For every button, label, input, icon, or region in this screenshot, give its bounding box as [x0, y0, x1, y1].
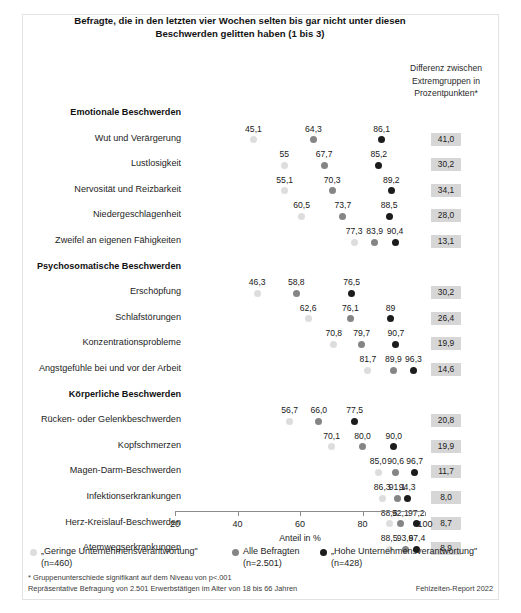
data-point-low — [281, 187, 288, 194]
data-point-value: 70,1 — [323, 431, 340, 441]
x-axis-tick — [300, 512, 301, 516]
data-point-value: 89,2 — [383, 175, 400, 185]
data-point-value: 58,8 — [288, 277, 305, 287]
difference-badge: 19,9 — [431, 337, 461, 350]
data-point-value: 66,0 — [310, 405, 327, 415]
data-point-value: 76,5 — [343, 277, 360, 287]
plot-area: Emotionale BeschwerdenWut und Verärgerun… — [0, 0, 521, 613]
data-point-value: 90,0 — [385, 431, 402, 441]
data-point-low — [298, 213, 305, 220]
x-axis: 20406080100 — [175, 511, 425, 512]
x-axis-tick — [175, 512, 176, 516]
data-point-high — [351, 418, 358, 425]
data-point-value: 89 — [386, 303, 396, 313]
legend-sample-size: (n=2.501) — [243, 558, 282, 568]
source-label: Fehlzeiten-Report 2022 — [416, 584, 493, 593]
data-point-low — [375, 469, 382, 476]
data-point-low — [330, 341, 337, 348]
data-point-value: 85,2 — [370, 149, 387, 159]
data-point-value: 86,1 — [373, 124, 390, 134]
data-point-mid — [397, 520, 404, 527]
data-point-high — [392, 239, 399, 246]
x-axis-tick — [238, 512, 239, 516]
x-axis-tick-label: 40 — [232, 519, 242, 529]
data-point-low — [305, 315, 312, 322]
data-point-high — [388, 187, 395, 194]
data-point-value: 90,6 — [387, 456, 404, 466]
difference-badge: 11,7 — [431, 465, 461, 478]
x-axis-tick-label: 60 — [295, 519, 305, 529]
legend-sample-size: (n=460) — [41, 558, 72, 568]
data-point-value: 88,5 — [381, 200, 398, 210]
row-label: Angstgefühle bei und vor der Arbeit — [0, 363, 181, 373]
data-point-high — [348, 290, 355, 297]
row-label: Wut und Verärgerung — [0, 133, 181, 143]
difference-badge: 19,9 — [431, 440, 461, 453]
data-point-value: 90,4 — [387, 226, 404, 236]
data-point-high — [387, 315, 394, 322]
difference-badge: 41,0 — [431, 133, 461, 146]
row-label: Magen-Darm-Beschwerden — [0, 465, 181, 475]
data-point-value: 73,7 — [334, 200, 351, 210]
data-point-mid — [358, 341, 365, 348]
data-point-value: 97,2 — [408, 508, 425, 518]
data-point-high — [386, 213, 393, 220]
difference-badge: 30,2 — [431, 286, 461, 299]
x-axis-title: Anteil in % — [175, 533, 425, 543]
data-point-mid — [359, 443, 366, 450]
difference-badge: 20,8 — [431, 414, 461, 427]
data-point-value: 56,7 — [281, 405, 298, 415]
row-label: Lustlosigkeit — [0, 158, 181, 168]
footnote-sample: Repräsentative Befragung von 2.501 Erwer… — [28, 584, 297, 593]
data-point-value: 77,3 — [346, 226, 363, 236]
data-point-mid — [310, 136, 317, 143]
data-point-mid — [321, 162, 328, 169]
data-point-mid — [371, 239, 378, 246]
data-point-low — [351, 239, 358, 246]
data-point-value: 85,0 — [370, 456, 387, 466]
data-point-mid — [390, 367, 397, 374]
legend-dot-mid — [232, 549, 239, 556]
data-point-low — [328, 443, 335, 450]
row-label: Zweifel an eigenen Fähigkeiten — [0, 235, 181, 245]
data-point-mid — [315, 418, 322, 425]
chart-page: Befragte, die in den letzten vier Wochen… — [0, 0, 521, 613]
data-point-value: 90,7 — [388, 328, 405, 338]
data-point-value: 77,5 — [346, 405, 363, 415]
data-point-high — [378, 136, 385, 143]
difference-badge: 8,0 — [431, 491, 461, 504]
x-axis-tick — [363, 512, 364, 516]
x-axis-tick-label: 100 — [417, 519, 432, 529]
data-point-low — [379, 495, 386, 502]
row-label: Infektionserkrankungen — [0, 491, 181, 501]
legend-label: Alle Befragten — [243, 546, 300, 558]
data-point-value: 80,0 — [354, 431, 371, 441]
data-point-high — [375, 162, 382, 169]
data-point-value: 83,9 — [366, 226, 383, 236]
data-point-low — [281, 162, 288, 169]
data-point-high — [404, 495, 411, 502]
difference-badge: 28,0 — [431, 209, 461, 222]
data-point-value: 96,3 — [405, 354, 422, 364]
x-axis-tick — [425, 512, 426, 516]
row-label: Kopfschmerzen — [0, 440, 181, 450]
row-label: Schlafstörungen — [0, 312, 181, 322]
difference-badge: 30,2 — [431, 158, 461, 171]
data-point-low — [250, 136, 257, 143]
data-point-value: 46,3 — [249, 277, 266, 287]
section-header: Emotionale Beschwerden — [0, 107, 181, 117]
data-point-value: 96,7 — [406, 456, 423, 466]
data-point-low — [386, 520, 393, 527]
data-point-high — [411, 469, 418, 476]
data-point-value: 79,7 — [353, 328, 370, 338]
data-point-mid — [339, 213, 346, 220]
difference-badge: 34,1 — [431, 184, 461, 197]
difference-badge: 13,1 — [431, 235, 461, 248]
data-point-value: 55 — [280, 149, 290, 159]
data-point-high — [410, 367, 417, 374]
section-header: Körperliche Beschwerden — [0, 389, 181, 399]
legend-dot-low — [30, 549, 37, 556]
legend-dot-high — [320, 549, 327, 556]
row-label: Nervosität und Reizbarkeit — [0, 184, 181, 194]
data-point-low — [286, 418, 293, 425]
